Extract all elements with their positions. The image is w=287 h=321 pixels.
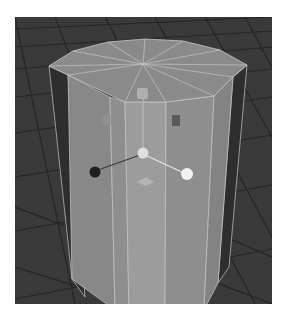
cylinder-front-center-face[interactable]: [125, 102, 166, 304]
scene[interactable]: [15, 17, 272, 304]
x-axis-handle[interactable]: [181, 168, 193, 180]
z-axis-handle[interactable]: [90, 167, 101, 178]
ghost-rotate-marker: [102, 114, 114, 126]
cylinder-front-left-face[interactable]: [68, 75, 115, 304]
center-move-handle[interactable]: [138, 148, 149, 159]
3d-viewport[interactable]: 3D viewport - perspective: [15, 17, 272, 304]
ghost-scale-marker: [172, 115, 180, 126]
y-axis-handle[interactable]: [137, 88, 148, 99]
